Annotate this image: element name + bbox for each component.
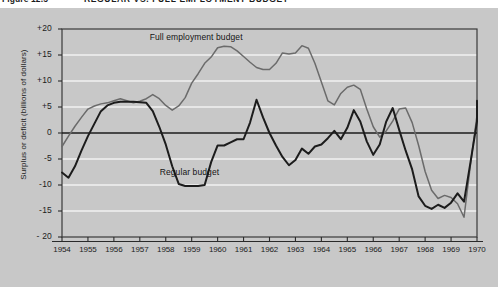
series-line-regular-budget bbox=[62, 100, 477, 209]
series-label-regular-budget: Regular budget bbox=[160, 167, 220, 177]
series-label-full-employment-budget: Full employment budget bbox=[150, 32, 243, 42]
chart-figure: Surplus or deficit (billions of dollars)… bbox=[0, 10, 498, 287]
figure-number: Figure 12.5 bbox=[2, 0, 48, 4]
figure-title: REGULAR VS. FULL EMPLOYMENT BUDGET bbox=[84, 0, 289, 4]
figure-heading: Figure 12.5 REGULAR VS. FULL EMPLOYMENT … bbox=[0, 0, 498, 8]
plot-area bbox=[0, 10, 498, 287]
